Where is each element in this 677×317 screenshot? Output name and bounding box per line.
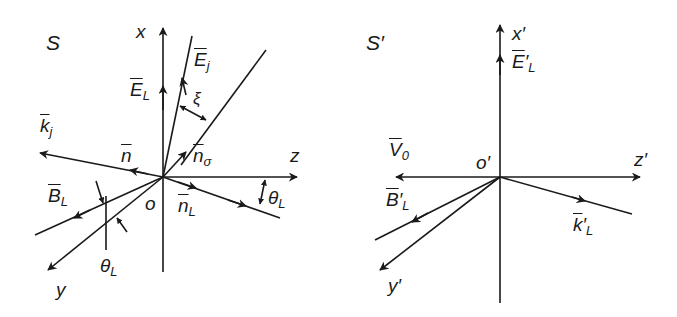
- s-theta-l-right-label: θL: [268, 188, 286, 210]
- s-n-l-label: nL: [178, 196, 196, 218]
- sp-o-label: o′: [476, 153, 490, 172]
- s-z-label: z: [290, 146, 300, 165]
- s-k-j-label: kj: [40, 116, 52, 138]
- s-o-label: o: [145, 194, 156, 213]
- s-xi-label: ξ: [193, 90, 201, 107]
- sp-e-l-label: E′L: [512, 52, 535, 74]
- sp-x-label: x′: [512, 24, 525, 43]
- sp-frame-title: S′: [366, 32, 384, 53]
- s-n-label: n: [121, 146, 132, 165]
- sp-k-l-line: [500, 177, 632, 214]
- s-frame-title: S: [46, 32, 60, 53]
- sp-k-l-label: k′L: [573, 215, 593, 237]
- s-xi-angle: [180, 106, 206, 120]
- frame-s-prime-lines: [375, 25, 640, 303]
- s-theta-l-right: [260, 180, 265, 204]
- s-n-sigma-label: nσ: [193, 146, 211, 168]
- frame-s-lines: [35, 28, 297, 272]
- sp-y-label: y′: [388, 276, 401, 295]
- s-x-label: x: [136, 22, 146, 41]
- s-theta-l-left-label: θL: [100, 256, 118, 278]
- sp-b-l-label: B′L: [386, 190, 409, 212]
- diagram-canvas: S x EL Ej ξ kj n nσ z o nL θL BL θL y S′…: [0, 0, 677, 317]
- s-b-l-label: BL: [48, 186, 68, 208]
- s-y-label: y: [56, 280, 66, 299]
- sp-z-label: z′: [634, 150, 647, 169]
- s-n-sigma-vector: [163, 152, 186, 177]
- sp-v0-label: V0: [389, 140, 409, 162]
- s-e-j-label: Ej: [194, 50, 210, 72]
- s-e-l-label: EL: [130, 80, 150, 102]
